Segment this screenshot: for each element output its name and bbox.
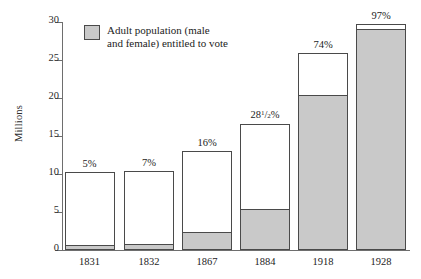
bar-percent-label-1928: 97% (371, 10, 390, 21)
x-axis-label-1884: 1884 (255, 256, 276, 267)
tick-label: 15 (49, 128, 60, 139)
tick-label: 10 (49, 166, 60, 177)
bar-percent-label-1918: 74% (313, 39, 332, 50)
x-axis-label-1832: 1832 (139, 256, 160, 267)
x-axis-label-1867: 1867 (197, 256, 218, 267)
bar-1884 (240, 124, 290, 250)
bar-1867 (182, 151, 232, 250)
bar-percent-label-1867: 16% (197, 137, 216, 148)
tick-label: 25 (49, 52, 60, 63)
legend: Adult population (male and female) entit… (84, 24, 228, 50)
x-axis-label-1831: 1831 (79, 256, 100, 267)
x-axis-label-1918: 1918 (313, 256, 334, 267)
legend-label: Adult population (male and female) entit… (107, 24, 228, 50)
tick-label: 0 (54, 242, 59, 253)
tick-label: 30 (49, 14, 60, 25)
bar-chart: Millions 051015202530 5%18317%183216%186… (0, 0, 421, 279)
plot-area: 051015202530 5%18317%183216%1867281/2%18… (62, 22, 410, 250)
tick-label: 20 (49, 90, 60, 101)
bar-percent-label-1831: 5% (83, 158, 97, 169)
bar-1918 (298, 53, 348, 250)
bar-percent-label-1884: 281/2% (250, 109, 279, 120)
bar-segment-entitled-1918 (299, 95, 347, 249)
legend-swatch-icon (84, 25, 100, 40)
bar-1928 (356, 24, 406, 250)
bar-segment-entitled-1928 (357, 29, 405, 249)
y-axis-line (62, 22, 63, 250)
bar-1831 (65, 172, 115, 250)
bar-percent-label-1832: 7% (142, 157, 156, 168)
tick-label: 5 (54, 204, 59, 215)
bar-segment-entitled-1867 (183, 232, 231, 249)
bar-1832 (124, 171, 174, 250)
bar-segment-entitled-1831 (66, 245, 114, 249)
bar-segment-entitled-1884 (241, 209, 289, 249)
x-axis-label-1928: 1928 (371, 256, 392, 267)
y-axis-title: Millions (13, 84, 24, 164)
bar-segment-entitled-1832 (125, 244, 173, 249)
